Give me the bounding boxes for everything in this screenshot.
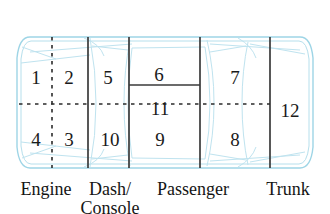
zone-number-2: 2 — [64, 68, 74, 87]
windshield-left-curve — [90, 38, 96, 167]
zone-number-9: 9 — [155, 130, 165, 149]
body-crease-upper — [30, 44, 132, 52]
rear-deck-upper-line — [210, 46, 246, 52]
vehicle-zone-diagram: 1 2 5 6 7 11 12 4 3 10 9 8 Engine Dash/ … — [0, 0, 330, 214]
section-label-trunk: Trunk — [266, 180, 309, 199]
zone-number-12: 12 — [281, 101, 300, 120]
section-label-dash-console: Dash/ Console — [80, 180, 139, 214]
zone-number-5: 5 — [103, 68, 113, 87]
zone-number-11: 11 — [151, 99, 169, 118]
zone-number-4: 4 — [31, 130, 41, 149]
roof-top-line — [132, 47, 205, 48]
section-label-passenger: Passenger — [157, 180, 229, 199]
section-label-engine: Engine — [21, 180, 72, 199]
roof-right-edge — [205, 47, 210, 159]
zone-number-6: 6 — [154, 65, 164, 84]
roof-bottom-line — [132, 158, 205, 159]
front-bumper-upper — [22, 47, 56, 59]
zone-number-3: 3 — [64, 130, 74, 149]
zone-number-10: 10 — [101, 130, 120, 149]
body-crease-lower — [30, 153, 132, 161]
zone-number-7: 7 — [230, 68, 240, 87]
zone-number-8: 8 — [230, 130, 240, 149]
zone-number-1: 1 — [31, 68, 41, 87]
